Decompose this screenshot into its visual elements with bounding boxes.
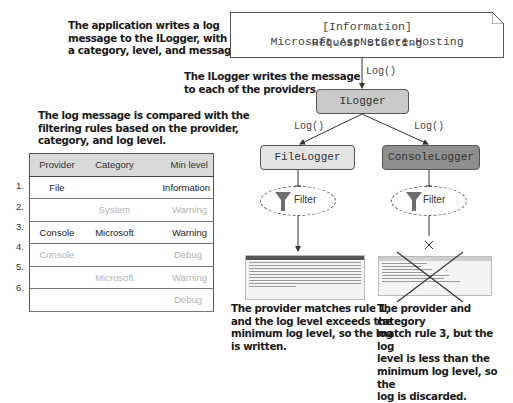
- cell-category: System: [84, 199, 145, 222]
- filter-rules-table: Provider Category Min level File Informa…: [29, 153, 214, 312]
- note-line: The provider matches rule 1,: [231, 302, 393, 315]
- note-line: The provider and category: [377, 302, 513, 327]
- cell-category: [84, 289, 145, 312]
- column-header-category: Category: [84, 154, 145, 177]
- rule-index: 6.: [16, 282, 24, 293]
- ilogger-label: ILogger: [339, 95, 385, 107]
- table-header-row: Provider Category Min level: [30, 154, 214, 177]
- console-logger-node: ConsoleLogger: [382, 145, 480, 170]
- note-line: The log message is compared with the: [38, 109, 249, 122]
- cell-provider: [30, 289, 84, 312]
- edge-label-log: Log(): [414, 121, 444, 132]
- discarded-x-icon: [395, 250, 465, 304]
- table-row: Console Debug: [30, 244, 214, 267]
- cell-min-level: Information: [145, 176, 213, 199]
- table-row: File Information: [30, 176, 214, 199]
- funnel-icon: [275, 192, 291, 211]
- filter-label: Filter: [294, 194, 316, 205]
- console-logger-label: ConsoleLogger: [388, 151, 474, 163]
- note-line: minimum log level, so the: [377, 365, 513, 390]
- note-line: filtering rules based on the provider,: [38, 122, 249, 135]
- note-line: minimum log level, so the log: [231, 327, 393, 340]
- rule-index: 3.: [16, 221, 24, 232]
- column-header-min-level: Min level: [145, 154, 213, 177]
- note-line: The ILogger writes the message: [184, 70, 360, 83]
- table-row: Console Microsoft Warning: [30, 221, 214, 244]
- funnel-icon: [406, 192, 422, 211]
- note-line: level is less than the: [377, 352, 513, 365]
- table-row: Debug: [30, 289, 214, 312]
- note-console-result: The provider and category match rule 3, …: [377, 302, 513, 403]
- note-line: is written.: [231, 340, 393, 353]
- cell-min-level: Warning: [145, 199, 213, 222]
- note-line: category, and log level.: [38, 134, 249, 147]
- cell-min-level: Warning: [145, 221, 213, 244]
- rule-index: 2.: [16, 201, 24, 212]
- note-compared: The log message is compared with the fil…: [38, 109, 249, 147]
- note-file-result: The provider matches rule 1, and the log…: [231, 302, 393, 352]
- column-header-provider: Provider: [30, 154, 84, 177]
- cell-category: Microsoft: [84, 221, 145, 244]
- cell-category: Microsoft: [84, 266, 145, 289]
- cell-provider: Console: [30, 244, 84, 267]
- cell-provider: Console: [30, 221, 84, 244]
- cell-min-level: Warning: [145, 266, 213, 289]
- edge-label-log: Log(): [366, 66, 396, 77]
- cell-min-level: Debug: [145, 289, 213, 312]
- cell-category: [84, 176, 145, 199]
- file-logger-node: FileLogger: [260, 145, 355, 170]
- filter-label: Filter: [423, 194, 445, 205]
- table-row: System Warning: [30, 199, 214, 222]
- cell-provider: [30, 199, 84, 222]
- note-line: match rule 3, but the log: [377, 327, 513, 352]
- ilogger-node: ILogger: [316, 89, 409, 114]
- cell-provider: File: [30, 176, 84, 199]
- table-row: Microsoft Warning: [30, 266, 214, 289]
- file-log-output-thumbnail: [245, 255, 365, 300]
- thumbnail-titlebar: [246, 256, 364, 260]
- file-filter: Filter: [260, 186, 336, 216]
- console-filter: Filter: [391, 186, 467, 216]
- rule-index: 5.: [16, 261, 24, 272]
- edge-label-log: Log(): [294, 121, 324, 132]
- note-line: log is discarded.: [377, 390, 513, 403]
- file-logger-label: FileLogger: [274, 151, 340, 163]
- note-line: and the log level exceeds the: [231, 315, 393, 328]
- cell-category: [84, 244, 145, 267]
- cell-min-level: Debug: [145, 244, 213, 267]
- rule-index: 1.: [16, 180, 24, 191]
- cell-provider: [30, 266, 84, 289]
- rule-index: 4.: [16, 241, 24, 252]
